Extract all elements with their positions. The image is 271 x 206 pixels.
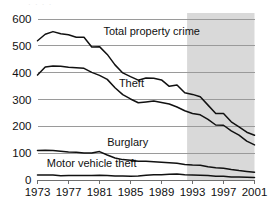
series-label-burglary: Burglary bbox=[107, 136, 148, 148]
y-axis-label-400: 400 bbox=[12, 67, 31, 79]
y-axis-label-500: 500 bbox=[12, 40, 31, 52]
x-axis-label-1977: 1977 bbox=[56, 186, 82, 198]
y-axis-label-0: 0 bbox=[25, 174, 31, 186]
y-axis-tick-labels: 0100200300400500600 bbox=[12, 13, 31, 186]
x-axis-label-1989: 1989 bbox=[149, 186, 175, 198]
property-crime-line-chart: · · · · 0100200300400500600 197319771981… bbox=[0, 0, 271, 206]
x-axis-label-1993: 1993 bbox=[180, 186, 206, 198]
y-axis-label-300: 300 bbox=[12, 94, 31, 106]
x-tick-marks-group bbox=[38, 180, 255, 184]
y-axis-label-600: 600 bbox=[12, 13, 31, 25]
series-inline-labels: Total property crimeTheftBurglaryMotor v… bbox=[47, 25, 200, 169]
y-axis-label-100: 100 bbox=[12, 147, 31, 159]
x-axis-tick-labels: 19731977198119851989199319972001 bbox=[25, 186, 268, 198]
x-axis-label-1981: 1981 bbox=[87, 186, 113, 198]
series-label-total-property-crime: Total property crime bbox=[103, 25, 200, 37]
chart-canvas: 0100200300400500600 19731977198119851989… bbox=[0, 0, 271, 206]
x-axis-label-1997: 1997 bbox=[211, 186, 237, 198]
x-axis-label-2001: 2001 bbox=[242, 186, 268, 198]
series-label-theft: Theft bbox=[119, 77, 144, 89]
x-axis-label-1973: 1973 bbox=[25, 186, 51, 198]
x-axis-label-1985: 1985 bbox=[118, 186, 144, 198]
series-label-motor-vehicle-theft: Motor vehicle theft bbox=[47, 157, 137, 169]
y-axis-label-200: 200 bbox=[12, 120, 31, 132]
